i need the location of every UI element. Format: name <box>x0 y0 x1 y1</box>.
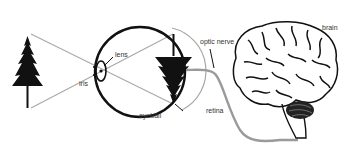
cerebellum-icon <box>286 101 314 119</box>
label-optic-nerve: optic nerve <box>200 38 234 46</box>
eye-brain-diagram: lens iris eyeball retina optic nerve bra… <box>0 0 351 150</box>
label-eyeball: eyeball <box>139 112 162 120</box>
label-brain: brain <box>322 24 338 31</box>
label-iris: iris <box>79 80 88 87</box>
eyeball <box>93 27 206 117</box>
brain-icon <box>233 22 337 138</box>
tree-object-icon <box>12 36 43 108</box>
optic-nerve <box>186 70 298 141</box>
label-lens: lens <box>115 51 128 58</box>
label-retina: retina <box>206 107 224 114</box>
